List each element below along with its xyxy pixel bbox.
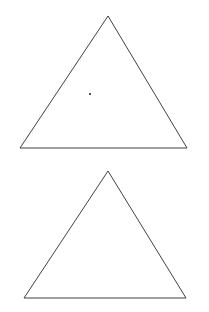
bottom-triangle <box>24 171 186 298</box>
top-triangle <box>20 16 187 148</box>
plait-point-marker <box>89 93 91 95</box>
ternary-diagrams <box>0 0 209 312</box>
bottom-ternary-diagram <box>24 171 186 298</box>
top-ternary-diagram <box>20 16 187 148</box>
